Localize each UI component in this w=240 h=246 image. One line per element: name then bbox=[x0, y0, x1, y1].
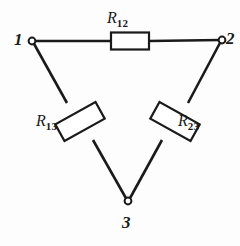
wire-segment-r13-to-3 bbox=[93, 140, 127, 200]
resistor-label-r23: R23 bbox=[178, 113, 199, 132]
node-label-2: 2 bbox=[226, 30, 235, 47]
node-terminal-2 bbox=[219, 37, 226, 44]
wire-segment-1-to-r13 bbox=[33, 42, 67, 103]
wire-segment-2-to-r23 bbox=[188, 41, 221, 103]
node-terminal-3 bbox=[125, 198, 132, 205]
node-label-1: 1 bbox=[14, 31, 23, 48]
resistor-symbol-r13: R bbox=[36, 112, 46, 129]
resistor-symbol-r12: R bbox=[107, 9, 117, 26]
resistor-subscript-r13: 13 bbox=[46, 120, 58, 132]
circuit-diagram: 1 2 3 R12 R13 R23 bbox=[0, 0, 240, 246]
wire-segment-r23-to-3 bbox=[129, 140, 162, 200]
resistor-group-r13 bbox=[55, 102, 104, 141]
resistor-label-r12: R12 bbox=[107, 10, 128, 29]
wire-segment-r12-to-2 bbox=[149, 40, 221, 41]
node-label-3: 3 bbox=[122, 214, 131, 231]
resistor-subscript-r23: 23 bbox=[188, 120, 200, 132]
resistor-subscript-r12: 12 bbox=[117, 17, 129, 29]
resistor-body-r13 bbox=[55, 102, 104, 141]
resistor-body-r12 bbox=[111, 33, 149, 50]
node-terminal-1 bbox=[29, 38, 36, 45]
resistor-symbol-r23: R bbox=[178, 112, 188, 129]
resistor-label-r13: R13 bbox=[36, 113, 57, 132]
